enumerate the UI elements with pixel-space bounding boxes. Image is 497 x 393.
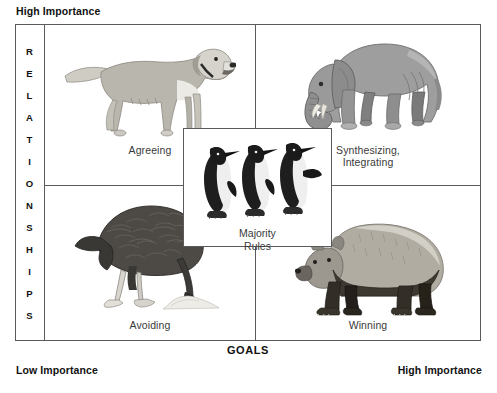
- relationships-letter: T: [27, 129, 33, 150]
- axis-label-relationships-high: High Importance: [16, 5, 100, 17]
- goals-axis-bar: GOALS: [15, 340, 481, 358]
- center-label-line1: Majority: [183, 227, 332, 240]
- relationships-letter: I: [28, 151, 31, 172]
- axis-label-goals-high: High Importance: [398, 364, 482, 376]
- center-label-line2: Rules: [183, 240, 332, 253]
- relationships-axis-rail: R E L A T I O N S H I P S: [15, 24, 45, 341]
- relationships-letter: O: [26, 173, 33, 194]
- penguins-icon: [196, 137, 322, 223]
- elephant-icon: [291, 30, 451, 140]
- relationships-letter: S: [26, 305, 32, 326]
- relationships-letter: A: [26, 107, 33, 128]
- relationships-letter: P: [26, 283, 32, 304]
- axis-label-goals-low: Low Importance: [16, 364, 98, 376]
- quadrant-label-winning: Winning: [255, 319, 481, 332]
- center-label-majority-rules: Majority Rules: [183, 227, 332, 252]
- diagram-canvas: High Importance Low Importance High Impo…: [0, 0, 497, 393]
- quadrant-label-avoiding: Avoiding: [45, 319, 255, 332]
- relationships-letter: S: [26, 217, 32, 238]
- goals-axis-label: GOALS: [227, 344, 269, 356]
- relationships-letter: E: [26, 63, 32, 84]
- relationships-letter: I: [28, 261, 31, 282]
- relationships-letter: R: [26, 41, 33, 62]
- relationships-letter: H: [26, 239, 33, 260]
- relationships-letter: L: [27, 85, 33, 106]
- relationships-letter: N: [26, 195, 33, 216]
- dog-icon: [61, 34, 236, 142]
